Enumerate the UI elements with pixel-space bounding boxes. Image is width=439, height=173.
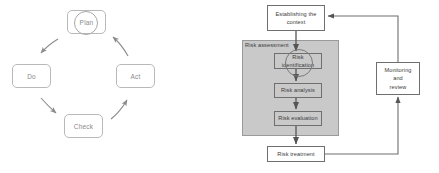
risk-box-risk-identification[interactable]: Risk identification [274, 53, 322, 69]
risk-box-risk-analysis-label: Risk analysis [281, 86, 315, 94]
risk-box-risk-identification-label: Risk identification [282, 53, 315, 69]
risk-box-risk-evaluation[interactable]: Risk evaluation [274, 111, 322, 126]
pdca-box-check-label: Check [74, 123, 93, 130]
pdca-box-plan-label: Plan [80, 19, 94, 26]
arrow-check-to-act [111, 100, 127, 119]
risk-management-process-diagram: Risk assessment Establishing the context [220, 0, 439, 173]
pdca-box-do-label: Do [27, 73, 36, 80]
risk-box-monitoring-and-review[interactable]: Monitoring and review [376, 62, 420, 95]
connector-treatment-to-monitoring [325, 97, 398, 154]
arrow-plan-to-do [41, 39, 58, 53]
arrow-do-to-check [41, 98, 56, 113]
risk-box-establishing-context-label: Establishing the context [275, 10, 316, 26]
risk-box-monitoring-and-review-label: Monitoring and review [384, 66, 411, 90]
arrow-act-to-plan [113, 37, 128, 56]
pdca-box-plan[interactable]: Plan [67, 10, 106, 34]
pdca-box-do[interactable]: Do [12, 64, 51, 88]
risk-box-establishing-context[interactable]: Establishing the context [267, 5, 325, 31]
pdca-box-act[interactable]: Act [116, 64, 155, 88]
risk-box-risk-analysis[interactable]: Risk analysis [274, 83, 322, 98]
risk-box-risk-treatment[interactable]: Risk treatment [267, 146, 325, 162]
risk-box-risk-treatment-label: Risk treatment [277, 150, 314, 158]
diagram-page: Plan Do Check Act Risk assessment [0, 0, 439, 173]
risk-box-risk-evaluation-label: Risk evaluation [278, 114, 317, 122]
connector-monitoring-to-context [328, 16, 398, 62]
pdca-box-act-label: Act [131, 73, 141, 80]
pdca-cycle-diagram: Plan Do Check Act [0, 0, 220, 173]
pdca-box-check[interactable]: Check [64, 114, 103, 138]
